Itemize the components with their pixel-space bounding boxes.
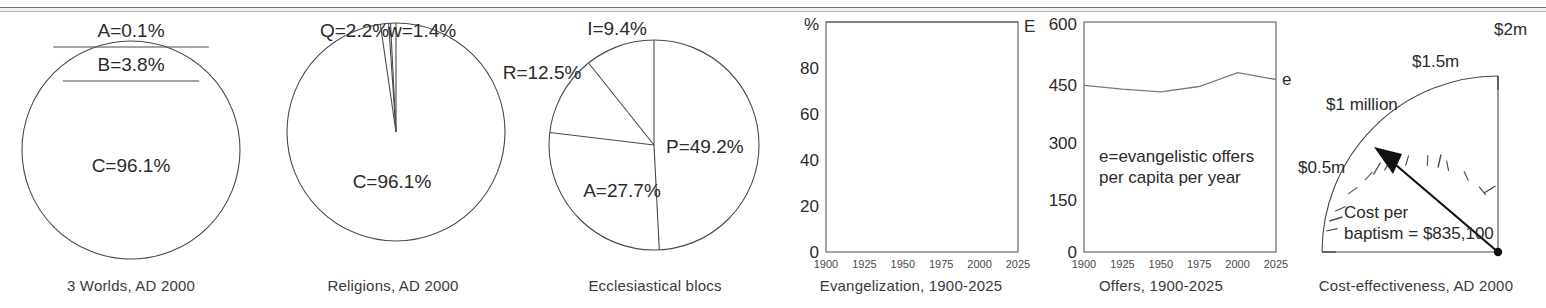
- label-r: R=12.5%: [503, 62, 582, 83]
- y-axis-unit: %: [804, 15, 819, 34]
- series-label-e: E: [1024, 17, 1035, 36]
- label-b: B=3.8%: [97, 54, 164, 75]
- x-tick-2000: 2000: [967, 258, 991, 270]
- dial-tick-label-0-5m: $0.5m: [1298, 158, 1345, 177]
- note-line-1: e=evangelistic offers: [1099, 147, 1254, 166]
- x-tick-2025: 2025: [1264, 258, 1288, 270]
- ecclesiastical-blocs-chart: I=9.4% R=12.5% P=49.2% A=27.7%: [524, 10, 786, 280]
- panel-cost-effectiveness: $0.5m $1 million $1.5m $2m Cost per bapt…: [1286, 10, 1546, 308]
- y-tick-450: 450: [1049, 76, 1077, 95]
- y-tick-20: 20: [800, 197, 819, 216]
- x-tick-2000: 2000: [1225, 258, 1249, 270]
- x-tick-1925: 1925: [852, 258, 876, 270]
- dial-note-line-2: baptism = $835,100: [1344, 224, 1494, 243]
- caption-religions: Religions, AD 2000: [262, 277, 524, 294]
- y-tick-150: 150: [1049, 191, 1077, 210]
- religions-chart: Q=2.2% w=1.4% C=96.1%: [262, 10, 524, 280]
- wedge-edge-a-end: [550, 133, 654, 146]
- dial-note-line-1: Cost per: [1344, 203, 1409, 222]
- panel-three-worlds: A=0.1% B=3.8% C=96.1% 3 Worlds, AD 2000: [0, 10, 262, 308]
- x-tick-1950: 1950: [891, 258, 915, 270]
- note-line-2: per capita per year: [1099, 168, 1241, 187]
- caption-ecclesiastical-blocs: Ecclesiastical blocs: [524, 277, 786, 294]
- dial-tick-label-2m: $2m: [1494, 20, 1527, 39]
- panel-religions: Q=2.2% w=1.4% C=96.1% Religions, AD 2000: [262, 10, 524, 308]
- y-tick-40: 40: [800, 151, 819, 170]
- cost-effectiveness-dial: $0.5m $1 million $1.5m $2m Cost per bapt…: [1286, 10, 1546, 280]
- panel-offers: e 0 150 300 450 600 e=evangelistic offer…: [1036, 10, 1286, 308]
- x-tick-1925: 1925: [1110, 258, 1134, 270]
- y-tick-300: 300: [1049, 134, 1077, 153]
- label-c: C=96.1%: [92, 155, 171, 176]
- label-w: w=1.4%: [387, 20, 456, 41]
- x-tick-1975: 1975: [929, 258, 953, 270]
- x-tick-1900: 1900: [814, 258, 838, 270]
- label-a: A=27.7%: [583, 180, 661, 201]
- evangelization-chart: % E 0 20 40 60 80 1900 1925 1950 1975 20…: [786, 10, 1036, 280]
- caption-offers: Offers, 1900-2025: [1036, 277, 1286, 294]
- three-worlds-chart: A=0.1% B=3.8% C=96.1%: [0, 10, 262, 280]
- x-tick-2025: 2025: [1006, 258, 1030, 270]
- label-q: Q=2.2%: [320, 20, 389, 41]
- label-p: P=49.2%: [666, 136, 744, 157]
- label-i: I=9.4%: [587, 18, 647, 39]
- plot-frame: [1084, 22, 1276, 252]
- series-e-line: [1084, 73, 1276, 92]
- label-a: A=0.1%: [97, 20, 164, 41]
- dial-tick-label-1-5m: $1.5m: [1412, 52, 1459, 71]
- panel-ecclesiastical-blocs: I=9.4% R=12.5% P=49.2% A=27.7% Ecclesias…: [524, 10, 786, 308]
- y-tick-60: 60: [800, 105, 819, 124]
- x-tick-1975: 1975: [1187, 258, 1211, 270]
- x-tick-1950: 1950: [1149, 258, 1173, 270]
- label-c: C=96.1%: [353, 171, 432, 192]
- panel-evangelization: % E 0 20 40 60 80 1900 1925 1950 1975 20…: [786, 10, 1036, 308]
- caption-evangelization: Evangelization, 1900-2025: [786, 277, 1036, 294]
- caption-cost-effectiveness: Cost-effectiveness, AD 2000: [1286, 277, 1546, 294]
- dial-tick-label-1m: $1 million: [1326, 95, 1398, 114]
- y-tick-600: 600: [1049, 15, 1077, 34]
- wedge-edge-r-end: [589, 64, 654, 146]
- offers-chart: e 0 150 300 450 600 e=evangelistic offer…: [1036, 10, 1286, 280]
- x-tick-1900: 1900: [1072, 258, 1096, 270]
- plot-frame: [826, 22, 1018, 252]
- y-tick-80: 80: [800, 59, 819, 78]
- caption-three-worlds: 3 Worlds, AD 2000: [0, 277, 262, 294]
